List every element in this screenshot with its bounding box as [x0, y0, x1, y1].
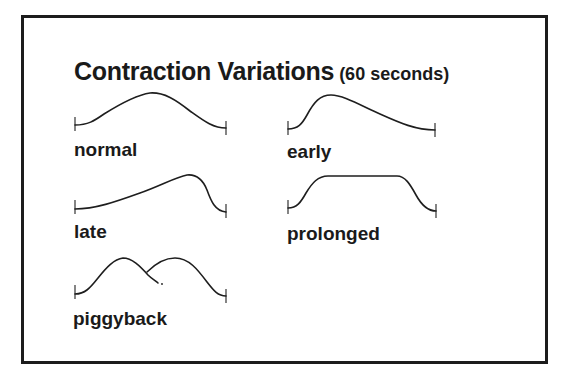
- label-normal: normal: [74, 139, 137, 161]
- curve-piggyback: [75, 258, 226, 303]
- label-piggyback: piggyback: [73, 308, 167, 330]
- curve-late: [75, 175, 226, 218]
- curve-early: [288, 95, 435, 137]
- curve-prolonged: [288, 176, 436, 218]
- label-early: early: [287, 141, 331, 163]
- curve-normal: [75, 93, 226, 135]
- label-late: late: [74, 221, 107, 243]
- label-prolonged: prolonged: [287, 223, 380, 245]
